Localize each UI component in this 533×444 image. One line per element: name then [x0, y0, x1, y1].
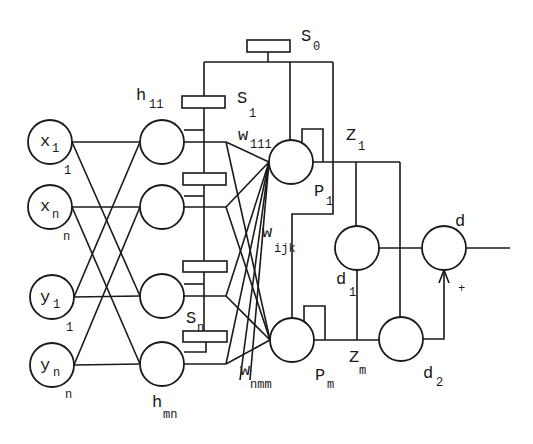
- label-x1: x: [40, 132, 50, 151]
- label-zm: Z: [349, 348, 359, 367]
- label-y1-sub: 1: [53, 298, 60, 312]
- label-x1-below: 1: [64, 164, 71, 178]
- input-node-y1: [30, 275, 74, 319]
- switch-s1b: [183, 173, 226, 185]
- label-s0-sub: 0: [313, 40, 320, 54]
- weight-connections: [226, 142, 270, 380]
- hidden-node-1: [140, 120, 184, 164]
- label-xn-below: n: [63, 230, 70, 244]
- product-node-p1: [269, 140, 313, 184]
- label-pm-sub: m: [327, 378, 334, 392]
- label-hmn-sub: mn: [163, 408, 177, 422]
- label-xn-sub: n: [52, 208, 59, 222]
- label-wijk: w: [262, 223, 273, 242]
- label-p1-sub: 1: [326, 195, 333, 209]
- switch-sn-a: [183, 261, 227, 272]
- label-zm-sub: m: [359, 364, 366, 378]
- label-s1-sub: 1: [249, 107, 256, 121]
- label-h11-sub: 11: [149, 98, 163, 112]
- label-h11: h: [136, 86, 146, 105]
- label-d1: d: [336, 270, 346, 289]
- label-yn-below: n: [65, 388, 72, 402]
- label-y1: y: [40, 288, 50, 307]
- switch-s1: [182, 96, 225, 108]
- label-sn: S: [186, 309, 196, 328]
- output-node-d2: [379, 317, 423, 361]
- switch-s0: [247, 40, 290, 52]
- hidden-output-lines: [184, 130, 226, 364]
- label-x1-sub: 1: [52, 142, 59, 156]
- label-wijk-sub: ijk: [274, 242, 296, 256]
- output-node-d1: [335, 226, 379, 270]
- label-xn: x: [40, 197, 50, 216]
- label-plus: +: [458, 282, 465, 296]
- switch-sn-b: [183, 331, 227, 342]
- label-w111: w: [238, 126, 249, 145]
- label-d2-sub: 2: [436, 376, 443, 390]
- hidden-node-2: [140, 185, 184, 229]
- label-sn-sub: n: [197, 321, 204, 335]
- label-w111-sub: 111: [250, 138, 272, 152]
- label-y1-below: 1: [66, 321, 73, 335]
- label-z1-sub: 1: [358, 140, 365, 154]
- label-yn-sub: n: [53, 366, 60, 380]
- output-node-d: [422, 226, 466, 270]
- label-wnmm-sub: nmm: [250, 378, 272, 392]
- input-node-yn: [30, 343, 74, 387]
- label-s1: S: [237, 89, 247, 108]
- label-d: d: [455, 212, 465, 231]
- label-d2: d: [423, 364, 433, 383]
- label-pm: P: [315, 366, 325, 385]
- label-d1-sub: 1: [349, 286, 356, 300]
- label-yn: y: [40, 356, 50, 375]
- label-z1: Z: [346, 126, 356, 145]
- label-s0: S: [301, 27, 311, 46]
- input-hidden-connections: [72, 142, 140, 365]
- label-hmn: h: [152, 393, 162, 412]
- hidden-node-3: [140, 274, 184, 318]
- neural-network-diagram: x 1 1 x n n y 1 1 y n n h 11 h mn S 0 S …: [0, 0, 533, 444]
- product-node-pm: [270, 318, 314, 362]
- label-p1: P: [314, 182, 324, 201]
- hidden-node-4: [140, 342, 184, 386]
